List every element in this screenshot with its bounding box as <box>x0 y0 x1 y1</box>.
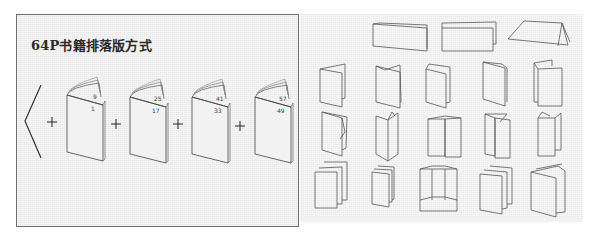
page-number-outer: 25 <box>154 95 162 102</box>
bracket-icon <box>25 85 41 158</box>
fold-illustration <box>376 112 398 161</box>
signature-booklet: 41 33 <box>192 79 230 163</box>
signature-booklet: 25 17 <box>130 79 168 163</box>
fold-illustration <box>483 62 507 106</box>
page-number-outer: 57 <box>279 95 287 102</box>
fold-illustration <box>442 22 496 51</box>
fold-styles-diagram <box>300 14 583 222</box>
fold-illustration <box>538 112 561 156</box>
fold-illustration <box>534 60 562 106</box>
plus-icon <box>111 119 121 129</box>
fold-illustration <box>320 64 345 107</box>
fold-illustration <box>485 114 510 158</box>
plus-icon <box>235 121 245 131</box>
fold-illustration <box>426 64 450 108</box>
signature-booklet: 57 49 <box>255 79 293 163</box>
fold-illustration <box>428 116 461 157</box>
plus-icon <box>47 117 57 127</box>
page-number-outer: 41 <box>216 95 224 102</box>
fold-illustration <box>531 164 565 217</box>
fold-styles-panel <box>300 14 583 222</box>
page-number-outer: 9 <box>93 93 97 100</box>
plus-icon <box>173 119 183 129</box>
fold-illustration <box>322 112 347 156</box>
fold-illustration <box>372 166 394 207</box>
fold-illustration <box>508 21 570 46</box>
page-number-inner: 1 <box>91 105 95 112</box>
page-number-inner: 33 <box>214 107 222 114</box>
fold-illustration <box>420 166 457 211</box>
page-number-inner: 17 <box>152 107 160 114</box>
page-number-inner: 49 <box>277 107 285 114</box>
imposition-panel: 64P书籍排落版方式 9 1 <box>16 14 299 227</box>
signature-booklet: 9 1 <box>67 77 105 161</box>
fold-illustration <box>373 23 427 51</box>
signature-diagram: 9 1 25 17 41 33 <box>17 15 300 228</box>
fold-illustration <box>480 166 512 214</box>
fold-illustration <box>315 162 347 208</box>
fold-illustration <box>376 65 401 108</box>
